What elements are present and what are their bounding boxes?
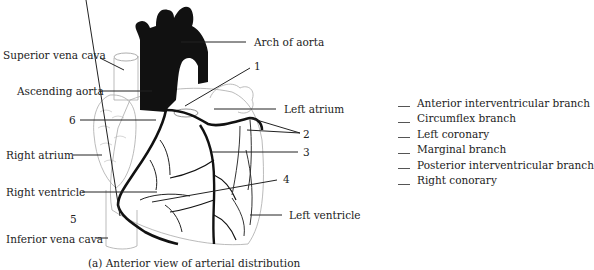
right-coronary-artery [118, 110, 178, 244]
answer-option-label: Circumflex branch [417, 112, 516, 124]
superior-vena-cava-shape [114, 56, 138, 100]
answer-option-label: Marginal branch [417, 143, 506, 155]
answer-blank[interactable] [398, 168, 410, 169]
label-left-atrium: Left atrium [284, 103, 344, 115]
answer-blank[interactable] [398, 106, 410, 107]
label-inferior-vena-cava: Inferior vena cava [6, 233, 103, 245]
answer-option: Circumflex branch [398, 111, 594, 127]
label-right-atrium: Right atrium [6, 149, 74, 161]
marker-1: 1 [254, 60, 261, 72]
marker-6: 6 [69, 114, 76, 126]
answer-blank[interactable] [398, 184, 410, 185]
answer-option-label: Right conorary [417, 174, 497, 186]
marker-3: 3 [303, 146, 310, 158]
label-superior-vena-cava: Superior vena cava [3, 49, 106, 61]
answer-option-label: Left coronary [417, 128, 489, 140]
answer-blank[interactable] [398, 122, 410, 123]
answer-option-label: Posterior interventricular branch [417, 159, 594, 171]
answer-option: Anterior interventricular branch [398, 95, 594, 111]
answer-blank[interactable] [398, 153, 410, 154]
label-left-ventricle: Left ventricle [289, 209, 361, 221]
aorta-shape [135, 7, 208, 112]
label-right-ventricle: Right ventricle [6, 186, 85, 198]
answer-bank: Anterior interventricular branch Circumf… [398, 95, 594, 188]
answer-option-label: Anterior interventricular branch [417, 97, 590, 109]
answer-option: Posterior interventricular branch [398, 157, 594, 173]
marker-5: 5 [70, 213, 77, 225]
label-ascending-aorta: Ascending aorta [17, 85, 104, 97]
answer-option: Right conorary [398, 173, 594, 189]
answer-option: Left coronary [398, 126, 594, 142]
anterior-interventricular-artery [200, 125, 214, 244]
label-arch-of-aorta: Arch of aorta [254, 36, 324, 48]
answer-blank[interactable] [398, 137, 410, 138]
marker-4: 4 [283, 173, 290, 185]
figure-caption: (a) Anterior view of arterial distributi… [88, 257, 300, 269]
answer-option: Marginal branch [398, 142, 594, 158]
right-atrium-shape [94, 95, 136, 188]
marker-2: 2 [303, 128, 310, 140]
